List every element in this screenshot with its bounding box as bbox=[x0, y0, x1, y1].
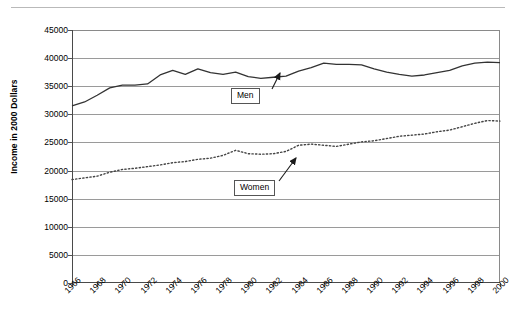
y-axis-tick-label: 40000 bbox=[24, 54, 68, 63]
y-axis-tick-label: 10000 bbox=[24, 223, 68, 232]
y-axis-tick-label: 0 bbox=[24, 279, 68, 288]
series-layer bbox=[72, 30, 500, 283]
y-axis-tick-label: 5000 bbox=[24, 251, 68, 260]
y-axis-tick-label: 30000 bbox=[24, 110, 68, 119]
top-divider-rule bbox=[11, 7, 505, 8]
y-axis-tick-label: 20000 bbox=[24, 167, 68, 176]
y-axis-title: Income in 2000 Dollars bbox=[8, 0, 21, 253]
y-axis-tick-label: 15000 bbox=[24, 195, 68, 204]
plot-area bbox=[72, 30, 500, 283]
women-series-callout: Women bbox=[234, 180, 275, 196]
men-series-callout: Men bbox=[231, 88, 260, 104]
income-line-chart: Income in 2000 Dollars 45000400003500030… bbox=[0, 0, 516, 323]
y-axis-tick-label: 25000 bbox=[24, 138, 68, 147]
y-axis-tick-label: 45000 bbox=[24, 26, 68, 35]
series-line-men bbox=[72, 62, 500, 106]
y-axis-tick-label: 35000 bbox=[24, 82, 68, 91]
series-line-women bbox=[72, 121, 500, 180]
